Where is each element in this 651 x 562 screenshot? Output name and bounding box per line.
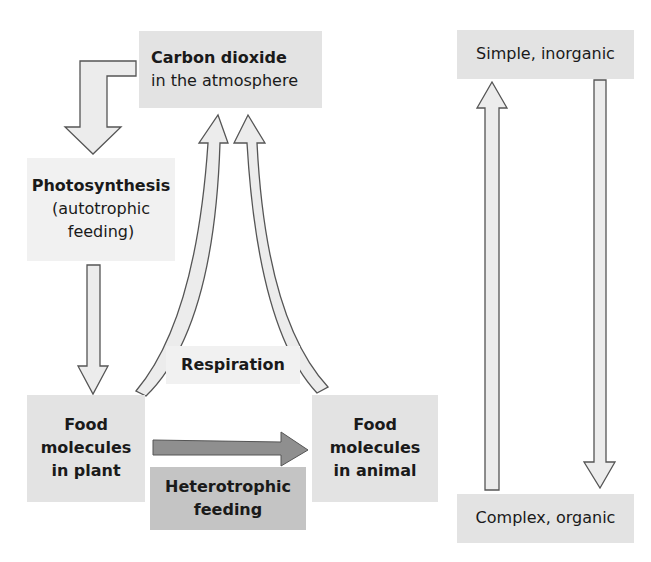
complex-organic-label: Complex, organic [476, 507, 616, 530]
heterotrophic-line2: feeding [194, 499, 262, 522]
respiration-label-box: Respiration [166, 346, 300, 384]
photosynthesis-line3: feeding) [68, 221, 134, 244]
photosynthesis-line2: (autotrophic [52, 198, 150, 221]
simple-inorganic-label: Simple, inorganic [476, 43, 615, 66]
food-plant-box: Food molecules in plant [27, 395, 145, 502]
food-animal-box: Food molecules in animal [312, 395, 438, 502]
food-plant-line2: molecules [41, 437, 132, 460]
food-animal-line2: molecules [330, 437, 421, 460]
food-plant-line3: in plant [51, 460, 120, 483]
respiration-label: Respiration [181, 354, 285, 377]
carbon-dioxide-subtitle: in the atmosphere [151, 70, 298, 93]
photosynthesis-to-plant-arrow [78, 265, 108, 394]
food-plant-line1: Food [64, 414, 108, 437]
co2-to-photosynthesis-arrow [65, 61, 136, 154]
carbon-dioxide-box: Carbon dioxide in the atmosphere [139, 31, 322, 108]
heterotrophic-box: Heterotrophic feeding [150, 467, 306, 530]
simple-inorganic-box: Simple, inorganic [457, 30, 634, 79]
food-animal-line3: in animal [333, 460, 416, 483]
heterotrophic-line1: Heterotrophic [165, 476, 291, 499]
carbon-dioxide-title: Carbon dioxide [151, 47, 287, 70]
heterotrophic-arrow [153, 432, 308, 466]
photosynthesis-box: Photosynthesis (autotrophic feeding) [27, 158, 175, 261]
down-arrow [584, 80, 615, 488]
complex-organic-box: Complex, organic [457, 494, 634, 543]
food-animal-line1: Food [353, 414, 397, 437]
up-arrow [477, 82, 507, 490]
photosynthesis-title: Photosynthesis [32, 175, 171, 198]
